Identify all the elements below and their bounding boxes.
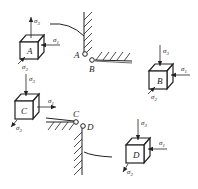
lower-structure <box>46 118 112 175</box>
sigma1-label-a: σ1 <box>53 36 59 45</box>
point-d-marker <box>81 124 86 129</box>
upper-floor-horizontal <box>95 60 132 61</box>
point-d-label: D <box>86 122 94 132</box>
element-c: C σ3 σ1 σ2 <box>11 74 56 133</box>
upper-structure <box>50 12 132 63</box>
sigma1-label-c: σ1 <box>48 97 54 106</box>
cube-c-face-label: C <box>21 106 28 116</box>
sigma2-label-a: σ2 <box>22 63 28 72</box>
cube-d-face-label: D <box>132 150 140 160</box>
element-d: D σ3 σ1 σ2 <box>123 119 167 177</box>
sigma2-label-c: σ2 <box>16 124 22 133</box>
sigma3-label-c: σ3 <box>29 75 35 84</box>
sigma3-label-a: σ3 <box>34 17 40 26</box>
lower-horizontal-hatching <box>48 122 75 130</box>
point-a-marker <box>83 52 88 57</box>
upper-floor-hatching <box>96 52 130 61</box>
cube-a-face-label: A <box>26 46 33 56</box>
stress-diagram: A B C D <box>0 0 198 189</box>
lower-top-line <box>46 118 74 121</box>
point-a-label: A <box>73 50 80 60</box>
sigma1-label-d: σ1 <box>159 139 165 148</box>
sigma2-label-b: σ2 <box>151 93 157 102</box>
lower-wall-hatching <box>74 132 82 175</box>
sigma1-label-b: σ1 <box>181 65 187 74</box>
sigma3-label-d: σ3 <box>141 119 147 128</box>
leader-curve-d <box>84 152 112 157</box>
element-a: A σ3 σ1 σ2 <box>18 17 60 72</box>
leader-curve-a <box>50 24 84 36</box>
sigma3-label-b: σ3 <box>163 47 169 56</box>
point-c-label: C <box>73 109 80 119</box>
upper-wall-hatching <box>84 12 92 53</box>
point-c-marker <box>74 120 79 125</box>
point-b-label: B <box>89 64 95 74</box>
point-b-marker <box>90 58 95 63</box>
element-b: B σ3 σ1 σ2 <box>148 45 190 102</box>
sigma2-label-d: σ2 <box>127 168 133 177</box>
cube-b-face-label: B <box>157 76 163 86</box>
